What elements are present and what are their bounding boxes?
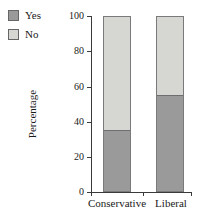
- legend-swatch-yes: [8, 10, 19, 21]
- legend-item-no: No: [8, 27, 70, 42]
- y-tick-20: [87, 157, 91, 158]
- x-tick-right: [191, 192, 192, 196]
- y-tick-label-60: 60: [58, 82, 84, 92]
- y-tick-40: [87, 122, 91, 123]
- bar-conservative-segment-no: [104, 17, 130, 130]
- y-tick-label-100: 100: [58, 11, 84, 21]
- x-label-conservative: Conservative: [79, 197, 155, 209]
- bar-conservative[interactable]: [103, 16, 131, 192]
- y-tick-label-20: 20: [58, 152, 84, 162]
- legend-label-no: No: [25, 29, 38, 40]
- y-tick-80: [87, 51, 91, 52]
- y-tick-100: [87, 16, 91, 17]
- bar-liberal[interactable]: [156, 16, 184, 192]
- y-axis-line: [91, 16, 92, 193]
- x-tick-left: [91, 192, 92, 196]
- x-axis-line: [91, 192, 192, 193]
- legend-label-yes: Yes: [25, 10, 41, 21]
- x-label-liberal: Liberal: [147, 197, 195, 209]
- bar-liberal-segment-yes: [157, 95, 183, 191]
- bar-conservative-segment-yes: [104, 130, 130, 191]
- y-tick-label-0: 0: [58, 187, 84, 197]
- x-tick-middle: [143, 192, 144, 196]
- y-tick-label-80: 80: [58, 46, 84, 56]
- legend-swatch-no: [8, 29, 19, 40]
- y-tick-label-40: 40: [58, 117, 84, 127]
- bar-liberal-segment-no: [157, 17, 183, 95]
- y-axis-title: Percentage: [26, 59, 38, 169]
- y-tick-60: [87, 87, 91, 88]
- stacked-bar-chart: Yes No Percentage 100 80 60 40 20 0 Cons…: [0, 0, 203, 219]
